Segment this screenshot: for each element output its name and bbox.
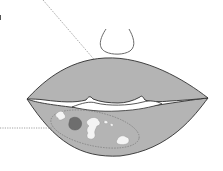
upper-lip [27, 58, 208, 103]
lips-diagram [0, 0, 223, 171]
nose-outline [100, 29, 134, 54]
dark-lesion-patch [69, 117, 82, 130]
